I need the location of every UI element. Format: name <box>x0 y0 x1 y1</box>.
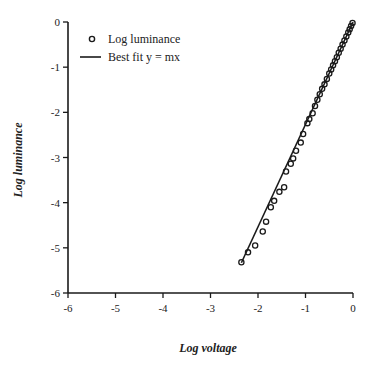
data-point-circle-icon <box>288 161 293 166</box>
y-tick-label: 0 <box>55 16 61 28</box>
data-point-circle-icon <box>263 219 268 224</box>
data-point-circle-icon <box>272 198 277 203</box>
ticks: -6-5-4-3-2-100-1-2-3-4-5-6 <box>51 16 356 314</box>
y-axis-title: Log luminance <box>11 122 25 199</box>
x-tick-label: -4 <box>158 302 168 314</box>
y-tick-label: -5 <box>51 242 61 254</box>
data-point-circle-icon <box>298 140 303 145</box>
legend-label-log-luminance: Log luminance <box>108 32 180 46</box>
x-tick-label: -5 <box>111 302 121 314</box>
best-fit-line-path <box>241 22 353 263</box>
y-tick-label: -4 <box>51 197 61 209</box>
x-tick-label: -3 <box>206 302 216 314</box>
data-point-circle-icon <box>277 189 282 194</box>
x-tick-label: -6 <box>63 302 73 314</box>
data-point-circle-icon <box>282 185 287 190</box>
best-fit-line <box>241 22 353 263</box>
data-point-circle-icon <box>268 205 273 210</box>
data-point-circle-icon <box>253 243 258 248</box>
chart: -6-5-4-3-2-100-1-2-3-4-5-6 Log luminance… <box>0 0 378 374</box>
data-point-circle-icon <box>260 229 265 234</box>
y-tick-label: -1 <box>51 61 60 73</box>
x-axis-title: Log voltage <box>178 341 237 355</box>
x-tick-label: -2 <box>253 302 262 314</box>
legend: Log luminance Best fit y = mx <box>80 32 180 64</box>
y-tick-label: -2 <box>51 106 60 118</box>
data-point-circle-icon <box>291 156 296 161</box>
legend-label-best-fit: Best fit y = mx <box>108 50 180 64</box>
legend-circle-marker-icon <box>89 36 94 41</box>
x-tick-label: -1 <box>301 302 310 314</box>
y-tick-label: -6 <box>51 287 61 299</box>
x-tick-label: 0 <box>350 302 356 314</box>
y-tick-label: -3 <box>51 152 61 164</box>
